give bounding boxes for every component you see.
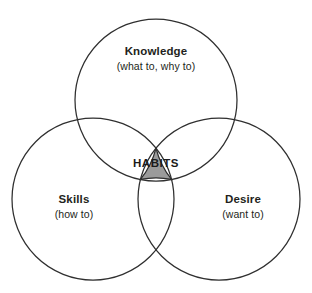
circle-skills	[12, 118, 174, 280]
circle-desire	[138, 118, 300, 280]
label-skills-title: Skills	[59, 193, 90, 205]
label-skills-subtitle: (how to)	[55, 208, 94, 220]
label-desire-subtitle: (want to)	[222, 208, 264, 220]
venn-svg-canvas: Knowledge (what to, why to) Skills (how …	[0, 0, 312, 293]
venn-diagram: Knowledge (what to, why to) Skills (how …	[0, 0, 312, 293]
label-desire-title: Desire	[225, 193, 261, 205]
label-knowledge-subtitle: (what to, why to)	[117, 60, 196, 72]
label-knowledge-title: Knowledge	[125, 45, 188, 57]
label-habits-center: HABITS	[133, 157, 179, 169]
